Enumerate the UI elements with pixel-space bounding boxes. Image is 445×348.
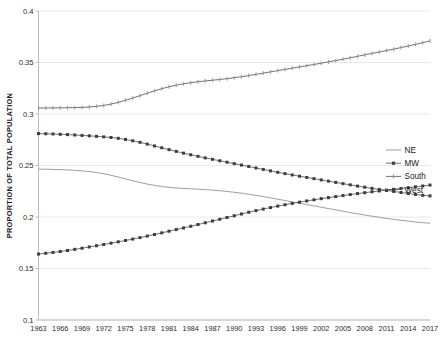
data-point-marker (118, 100, 119, 104)
data-point-marker (147, 91, 148, 95)
data-point-marker (124, 138, 127, 141)
data-point-marker (363, 191, 366, 194)
data-point-marker (262, 168, 265, 171)
data-point-marker (386, 49, 387, 53)
data-point-marker (226, 77, 227, 81)
data-point-marker (305, 176, 308, 179)
data-point-marker (342, 57, 343, 61)
legend-item-south[interactable]: South (386, 172, 426, 181)
data-point-marker (408, 44, 409, 48)
data-point-marker (197, 223, 200, 226)
data-point-marker (334, 181, 337, 184)
data-point-marker (328, 60, 329, 64)
data-point-marker (37, 132, 40, 135)
data-point-marker (60, 106, 61, 110)
data-point-marker (161, 87, 162, 91)
y-axis-title: PROPORTION OF TOTAL POPULATION (5, 93, 14, 238)
data-point-marker (218, 159, 221, 162)
data-point-marker (96, 104, 97, 108)
data-point-marker (211, 220, 214, 223)
data-point-marker (153, 144, 156, 147)
data-point-marker (313, 63, 314, 67)
data-point-marker (66, 249, 69, 252)
data-point-marker (393, 47, 394, 51)
data-point-marker (415, 42, 416, 46)
data-point-marker (131, 238, 134, 241)
data-point-marker (110, 102, 111, 106)
data-point-marker (204, 221, 207, 224)
data-point-marker (197, 155, 200, 158)
data-point-marker (59, 250, 62, 253)
data-point-marker (154, 89, 155, 93)
data-point-marker (327, 180, 330, 183)
data-point-marker (363, 186, 366, 189)
x-tick-label: 1969 (74, 324, 90, 333)
data-point-marker (226, 161, 229, 164)
data-point-marker (379, 50, 380, 54)
x-axis-tick-labels: 1963196619691972197519781981198419871990… (30, 324, 438, 333)
data-point-marker (160, 146, 163, 149)
data-point-marker (52, 106, 53, 110)
data-point-marker (81, 134, 84, 137)
y-tick-label: 0.4 (23, 7, 34, 16)
data-point-marker (81, 247, 84, 250)
data-point-marker (81, 106, 82, 110)
legend-label: MW (405, 159, 420, 168)
y-axis-title-text: PROPORTION OF TOTAL POPULATION (5, 93, 14, 238)
data-point-marker (364, 53, 365, 57)
data-point-marker (89, 105, 90, 109)
legend-swatch-marker (392, 188, 395, 191)
data-point-marker (110, 136, 113, 139)
data-point-marker (284, 172, 287, 175)
data-point-marker (349, 193, 352, 196)
legend-item-mw[interactable]: MW (386, 159, 419, 168)
data-point-marker (176, 83, 177, 87)
x-tick-label: 1999 (291, 324, 307, 333)
data-point-marker (233, 214, 236, 217)
y-tick-label: 0.15 (19, 264, 34, 273)
data-point-marker (52, 132, 55, 135)
data-point-marker (371, 190, 374, 193)
data-point-marker (189, 153, 192, 156)
data-point-marker (240, 164, 243, 167)
series-line-west (39, 185, 431, 254)
data-point-marker (306, 64, 307, 68)
data-point-marker (73, 248, 76, 251)
data-point-marker (321, 61, 322, 65)
data-point-marker (131, 139, 134, 142)
data-point-marker (356, 185, 359, 188)
data-point-marker (313, 177, 316, 180)
data-point-marker (59, 133, 62, 136)
data-point-marker (125, 98, 126, 102)
data-point-marker (226, 216, 229, 219)
x-tick-label: 1972 (96, 324, 112, 333)
x-tick-label: 2002 (313, 324, 329, 333)
data-point-marker (284, 68, 285, 72)
data-point-marker (45, 106, 46, 110)
data-point-marker (262, 208, 265, 211)
data-point-marker (44, 132, 47, 135)
data-point-marker (38, 106, 39, 110)
legend-item-west[interactable]: West (386, 186, 424, 195)
data-point-marker (182, 226, 185, 229)
x-tick-label: 1975 (117, 324, 133, 333)
data-point-marker (342, 182, 345, 185)
series-mw (37, 132, 432, 197)
data-point-marker (356, 192, 359, 195)
y-tick-label: 0.25 (19, 161, 34, 170)
legend-item-ne[interactable]: NE (386, 146, 416, 155)
y-axis-tick-labels: 0.10.150.20.250.30.350.4 (19, 7, 39, 325)
data-point-marker (385, 189, 388, 192)
data-point-marker (334, 195, 337, 198)
x-tick-label: 1963 (30, 324, 46, 333)
data-point-marker (67, 106, 68, 110)
data-point-marker (255, 209, 258, 212)
data-point-marker (132, 96, 133, 100)
y-tick-label: 0.2 (23, 213, 34, 222)
data-point-marker (298, 175, 301, 178)
y-tick-label: 0.3 (23, 110, 34, 119)
data-point-marker (234, 76, 235, 80)
data-point-marker (139, 236, 142, 239)
data-point-marker (146, 235, 149, 238)
data-point-marker (117, 137, 120, 140)
